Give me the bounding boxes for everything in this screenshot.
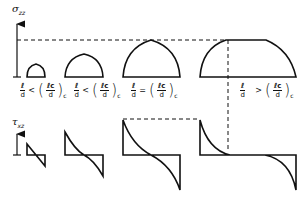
stress-distribution-diagram: [0, 0, 304, 224]
tau-axis: [13, 134, 21, 155]
condition-label-1: ℓd < ( ℓcd )c: [20, 82, 67, 99]
sigma-profile-3: [123, 40, 180, 77]
sigma-profiles: [27, 40, 296, 77]
sigma-profile-2: [65, 54, 103, 77]
condition-label-3: ℓd = ( ℓcd )c: [131, 82, 178, 99]
tau-profile-3: [123, 120, 180, 190]
sigma-axis-label: σzz: [12, 4, 25, 16]
tau-profile-1: [27, 144, 45, 166]
sigma-axis: [13, 24, 21, 77]
tau-profiles: [27, 120, 296, 190]
sigma-profile-4: [200, 40, 296, 77]
tau-profile-4: [200, 120, 296, 190]
tau-profile-2: [65, 132, 103, 176]
condition-label-4: ℓd > ( ℓcd )c: [240, 82, 294, 99]
sigma-profile-1: [27, 64, 45, 77]
condition-label-2: ℓd < ( ℓcd )c: [74, 82, 121, 99]
tau-axis-label: τxz: [12, 117, 24, 129]
